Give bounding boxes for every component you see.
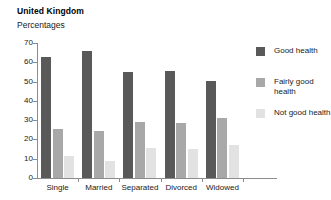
bar (229, 145, 239, 178)
legend-label: Not good health (274, 108, 331, 118)
y-tick-label: 70 (24, 39, 33, 47)
bar (94, 131, 104, 178)
plot-area (37, 43, 243, 178)
x-axis-line (37, 178, 277, 179)
x-tick-label: Separated (119, 183, 160, 192)
bar (64, 156, 74, 178)
x-tick-label: Single (37, 183, 78, 192)
y-tick-label: 40 (24, 97, 33, 105)
legend-label: Fairly good health (274, 77, 331, 97)
bar (41, 57, 51, 179)
bar-group (119, 43, 160, 178)
legend-swatch-icon (256, 109, 265, 118)
y-tick-mark (33, 178, 37, 179)
x-tick-mark (119, 178, 120, 182)
y-tick-label: 30 (24, 116, 33, 124)
bar (146, 148, 156, 178)
bar-group (161, 43, 202, 178)
x-tick-mark (78, 178, 79, 182)
x-tick-label: Widowed (202, 183, 243, 192)
x-tick-label: Married (78, 183, 119, 192)
bar-group (202, 43, 243, 178)
chart-container: United Kingdom Percentages 0102030405060… (0, 0, 331, 200)
x-tick-label: Divorced (161, 183, 202, 192)
y-tick-label: 20 (24, 135, 33, 143)
y-tick-label: 60 (24, 58, 33, 66)
x-tick-mark (202, 178, 203, 182)
bar (176, 123, 186, 178)
bar-group (78, 43, 119, 178)
bar (105, 161, 115, 178)
bar (135, 122, 145, 178)
bar (82, 51, 92, 178)
bar (165, 71, 175, 178)
bar (53, 129, 63, 178)
bar (206, 81, 216, 178)
legend-swatch-icon (256, 78, 265, 87)
y-tick-label: 10 (24, 155, 33, 163)
bar-group (37, 43, 78, 178)
y-tick-label: 50 (24, 78, 33, 86)
chart-title: United Kingdom (17, 6, 84, 16)
chart-subtitle: Percentages (17, 20, 65, 30)
x-tick-mark (243, 178, 244, 182)
bar (188, 149, 198, 178)
legend-swatch-icon (256, 47, 265, 56)
bar (217, 118, 227, 178)
legend-label: Good health (274, 46, 331, 56)
x-tick-mark (161, 178, 162, 182)
bar (123, 72, 133, 178)
